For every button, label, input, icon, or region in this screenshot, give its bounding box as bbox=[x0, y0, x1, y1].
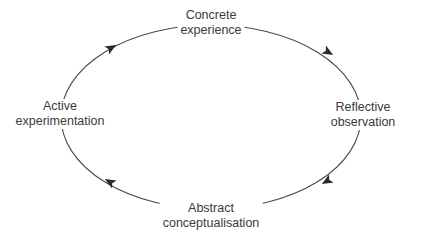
stage-label-line: Abstract bbox=[163, 201, 260, 216]
stage-concrete-experience: Concrete experience bbox=[177, 8, 244, 38]
stage-reflective-observation: Reflective observation bbox=[328, 100, 399, 130]
stage-label-line: experience bbox=[180, 23, 241, 38]
stage-label-line: Concrete bbox=[180, 8, 241, 23]
stage-label-line: conceptualisation bbox=[163, 216, 260, 231]
stage-active-experimentation: Active experimentation bbox=[13, 99, 108, 129]
arrow-top-left-icon bbox=[104, 41, 118, 54]
arrow-top-right-icon bbox=[321, 46, 335, 59]
stage-label-line: experimentation bbox=[16, 114, 105, 129]
arrow-bottom-right-icon bbox=[320, 175, 334, 188]
stage-label-line: observation bbox=[331, 115, 396, 130]
stage-label-line: Reflective bbox=[331, 100, 396, 115]
stage-label-line: Active bbox=[16, 99, 105, 114]
stage-abstract-conceptualisation: Abstract conceptualisation bbox=[160, 201, 263, 231]
